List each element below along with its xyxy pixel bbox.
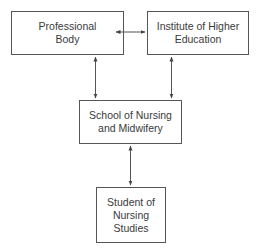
connector-layer: [0, 0, 262, 249]
